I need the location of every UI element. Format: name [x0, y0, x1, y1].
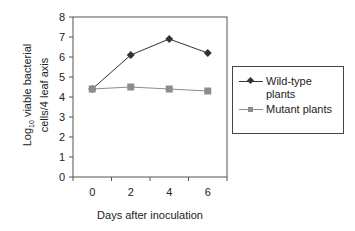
legend-label-mutant: Mutant plants: [266, 103, 332, 116]
y-tick-label: 3: [59, 111, 65, 123]
series-group: [88, 35, 212, 95]
diamond-marker-icon: [204, 49, 212, 57]
diamond-marker-icon: [165, 35, 173, 43]
legend: Wild-type plants Mutant plants: [232, 66, 344, 134]
square-marker-icon: [204, 88, 211, 95]
y-axis: 012345678: [59, 11, 73, 183]
y-tick-label: 4: [59, 91, 65, 103]
legend-label-wild-type: Wild-type: [266, 75, 312, 87]
x-axis: 0246: [73, 177, 227, 198]
legend-item-mutant: Mutant plants: [239, 103, 332, 116]
y-tick-label: 8: [59, 11, 65, 23]
y-label-line1: viable bacterial: [21, 44, 33, 120]
x-tick-label: 0: [89, 186, 95, 198]
y-tick-label: 5: [59, 71, 65, 83]
x-axis-label: Days after inoculation: [97, 209, 203, 221]
series-line: [92, 39, 208, 89]
square-marker-icon: [166, 86, 173, 93]
y-label-line2: cells/4 leaf axis: [38, 58, 50, 133]
x-tick-label: 6: [205, 186, 211, 198]
y-tick-label: 0: [59, 171, 65, 183]
square-marker-icon: [239, 103, 263, 116]
diamond-marker-icon: [239, 75, 263, 88]
y-tick-label: 1: [59, 151, 65, 163]
legend-label-wild-type-line2: plants: [266, 88, 295, 100]
y-label-prefix: Log: [21, 128, 33, 146]
y-label-subscript: 10: [28, 120, 35, 128]
y-tick-label: 7: [59, 31, 65, 43]
square-marker-icon: [127, 84, 134, 91]
x-tick-label: 2: [128, 186, 134, 198]
series-line: [92, 87, 208, 91]
y-tick-label: 6: [59, 51, 65, 63]
legend-item-wild-type: Wild-type plants: [239, 75, 312, 101]
x-tick-label: 4: [166, 186, 172, 198]
y-tick-label: 2: [59, 131, 65, 143]
plot-area: [73, 17, 227, 177]
y-axis-label: Log10 viable bacterial cells/4 leaf axis: [21, 44, 51, 147]
square-marker-icon: [89, 86, 96, 93]
